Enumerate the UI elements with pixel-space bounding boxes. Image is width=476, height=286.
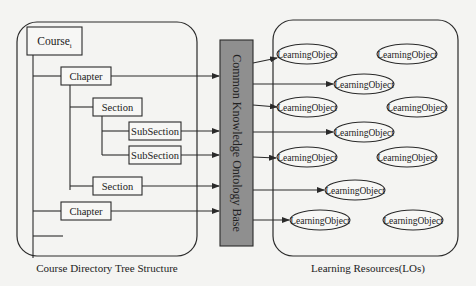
learning-object-label: LearningObject [325,186,385,196]
learning-object: LearningObject [377,44,437,64]
learning-objects: LearningObjectLearningObjectLearningObje… [277,44,447,230]
tree-node-label: SubSection [131,150,180,161]
ontology-diagram: CourseiChapterSectionSubSectionSubSectio… [0,0,476,286]
learning-object: LearningObject [334,74,394,94]
learning-object-label: LearningObject [377,50,437,60]
ontology-base: Common Knowledge Ontology Base [220,40,253,246]
tree-nodes: CourseiChapterSectionSubSectionSubSectio… [27,27,181,220]
tree-node-section2: Section [93,177,142,195]
learning-object: LearningObject [334,122,394,142]
left-caption: Course Directory Tree Structure [36,262,178,274]
learning-object-label: LearningObject [277,153,337,163]
learning-object-label: LearningObject [377,153,437,163]
tree-node-chapter2: Chapter [61,202,111,220]
tree-node-subsection1: SubSection [129,122,181,140]
learning-object: LearningObject [277,97,337,117]
tree-node-chapter1: Chapter [61,67,111,85]
learning-object-label: LearningObject [277,50,337,60]
learning-object-label: LearningObject [387,103,447,113]
learning-object-label: LearningObject [383,216,443,226]
learning-object: LearningObject [383,210,443,230]
tree-node-course: Coursei [27,27,82,55]
right-arrows [253,58,333,220]
learning-object: LearningObject [325,180,385,200]
tree-node-label: Section [102,102,134,113]
ontology-base-label: Common Knowledge Ontology Base [230,54,244,232]
tree-node-label: Chapter [69,71,103,82]
learning-object: LearningObject [277,147,337,167]
tree-node-section1: Section [93,98,142,116]
right-caption: Learning Resources(LOs) [311,262,425,275]
subscript: i [70,42,72,50]
tree-node-subsection2: SubSection [129,146,181,164]
learning-resources-panel: LearningObjectLearningObjectLearningObje… [253,20,458,275]
learning-object: LearningObject [277,44,337,64]
course-directory-panel: CourseiChapterSectionSubSectionSubSectio… [17,22,219,274]
learning-object: LearningObject [290,210,350,230]
tree-node-label: SubSection [131,126,180,137]
learning-object-label: LearningObject [334,128,394,138]
learning-object-label: LearningObject [290,216,350,226]
learning-object-label: LearningObject [277,103,337,113]
learning-object: LearningObject [387,97,447,117]
tree-node-label: Section [102,181,134,192]
tree-node-label: Chapter [69,206,103,217]
learning-object-label: LearningObject [334,80,394,90]
learning-object: LearningObject [377,147,437,167]
